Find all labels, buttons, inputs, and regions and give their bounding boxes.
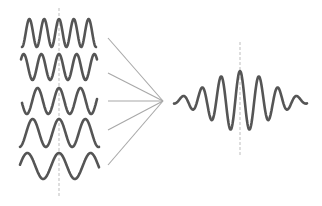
connector-line-2 — [108, 73, 163, 101]
connector-line-1 — [108, 38, 163, 101]
connector-lines — [108, 38, 163, 165]
connector-line-4 — [108, 101, 163, 130]
diagram-canvas — [0, 0, 322, 206]
connector-line-5 — [108, 101, 163, 165]
wave-superposition-diagram — [0, 0, 322, 206]
wave-2 — [21, 54, 97, 80]
